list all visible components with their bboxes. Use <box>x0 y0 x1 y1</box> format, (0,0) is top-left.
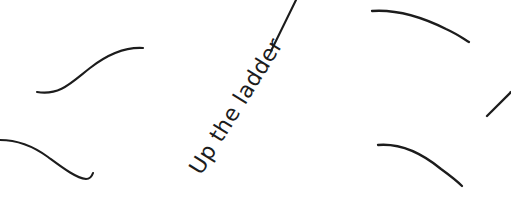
sketch-canvas: Up the ladder <box>0 0 511 211</box>
canvas-background <box>0 0 511 211</box>
sketch-drawing-surface: Up the ladder <box>0 0 511 211</box>
